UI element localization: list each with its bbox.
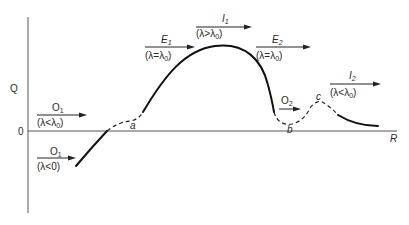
- region-condition: (λ=λ0): [256, 50, 282, 62]
- y-axis-label: Q: [10, 83, 18, 94]
- arrow-right-icon: [244, 25, 252, 30]
- region-condition: (λ>λ0): [196, 28, 222, 40]
- curve-segment-i2: [338, 115, 378, 126]
- region-condition: (λ=λ0): [145, 50, 171, 62]
- region-name: O2: [281, 95, 293, 107]
- region-i2: I2 (λ<λ0): [330, 70, 381, 99]
- point-a-label: a: [130, 120, 136, 131]
- energy-curve: [76, 45, 378, 166]
- region-o1-negative: O1 (λ<0): [37, 146, 76, 172]
- phase-diagram: Q 0 R a b c O1 (λ<0) O1 (λ<λ0) E1 (λ=λ0)…: [0, 0, 409, 225]
- point-c-label: c: [316, 91, 321, 102]
- arrow-right-icon: [79, 113, 87, 118]
- region-name: E2: [272, 34, 283, 46]
- region-condition: (λ<0): [37, 161, 60, 172]
- curve-segment-o1: [76, 131, 107, 166]
- arrow-right-icon: [293, 107, 301, 112]
- region-name: I1: [222, 13, 229, 25]
- arrow-right-icon: [303, 45, 311, 50]
- region-name: E1: [161, 34, 172, 46]
- region-condition: (λ<λ0): [37, 117, 63, 129]
- region-condition: (λ<λ0): [330, 87, 356, 99]
- region-i1: I1 (λ>λ0): [196, 13, 252, 40]
- point-b-label: b: [287, 124, 293, 135]
- region-name: I2: [349, 70, 356, 82]
- curve-dashed-a: [107, 112, 143, 131]
- arrow-right-icon: [68, 156, 76, 161]
- region-e2: E2 (λ=λ0): [256, 34, 311, 62]
- arrow-right-icon: [187, 45, 195, 50]
- origin-label: 0: [18, 126, 24, 137]
- region-o2: O2: [279, 95, 301, 112]
- region-o1-low: O1 (λ<λ0): [37, 102, 87, 129]
- x-axis-label: R: [390, 133, 397, 144]
- arrow-right-icon: [373, 82, 381, 87]
- region-name: O1: [50, 146, 62, 158]
- region-name: O1: [52, 102, 64, 114]
